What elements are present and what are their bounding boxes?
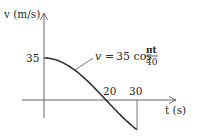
equation-numerator: πt <box>146 45 158 55</box>
velocity-time-chart: v (m/s) t (s) 35 20 30 v = 35 cos πt 40 <box>0 0 203 139</box>
velocity-curve <box>44 58 137 130</box>
x-axis-label: t (s) <box>165 104 186 116</box>
y-tick-35: 35 <box>26 52 39 64</box>
x-tick-20: 20 <box>103 85 116 97</box>
equation-denominator: 40 <box>146 57 158 67</box>
equation-leader-line <box>75 58 93 70</box>
y-axis-label: v (m/s) <box>3 8 40 20</box>
x-tick-30: 30 <box>129 85 142 97</box>
equation-equals: = <box>105 50 114 63</box>
equation-lhs: v <box>95 50 102 63</box>
